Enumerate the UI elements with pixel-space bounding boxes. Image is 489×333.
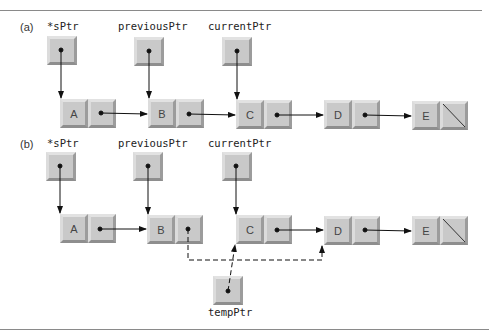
pointer-arrows-overlay (0, 0, 489, 333)
linked-list-deletion-diagram: (a) *sPtr previousPtr currentPtr A B C D… (0, 0, 489, 333)
